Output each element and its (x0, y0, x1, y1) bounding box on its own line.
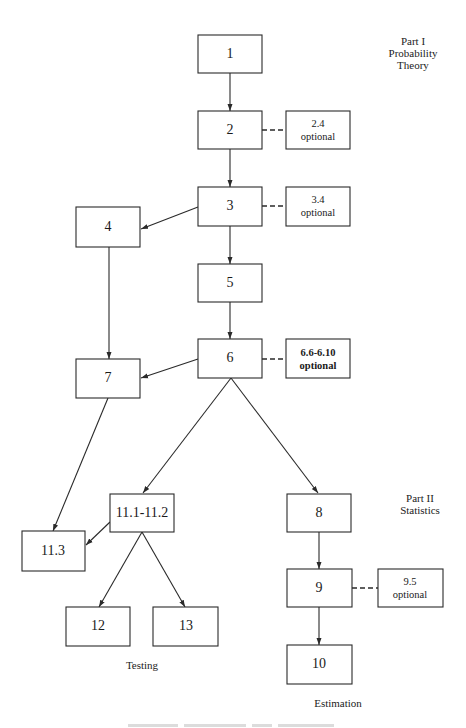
testing-label: Testing (126, 659, 159, 671)
node-2: 2 (198, 111, 262, 149)
estimation-label: Estimation (314, 697, 362, 709)
optional-section: 9.5 (403, 576, 416, 587)
part-1-label: Part I Probability Theory (389, 35, 438, 71)
node-label: 10 (312, 656, 326, 671)
node-1: 1 (198, 35, 262, 73)
edge-6-7 (141, 359, 198, 378)
cut-off-caption (128, 724, 334, 727)
optional-node-9-5: 9.5 optional (378, 569, 443, 607)
edge-11-1-13 (142, 532, 185, 607)
node-5: 5 (198, 264, 262, 302)
node-label: 13 (179, 618, 193, 633)
svg-text:Theory: Theory (397, 59, 429, 71)
node-label: 6 (227, 350, 234, 365)
optional-tag: optional (301, 131, 335, 142)
node-11-1-11-2: 11.1-11.2 (110, 494, 174, 532)
node-13: 13 (153, 607, 218, 646)
node-11-3: 11.3 (22, 531, 85, 571)
node-4: 4 (76, 207, 140, 247)
optional-tag: optional (300, 360, 337, 371)
edge-7-11-3 (53, 398, 108, 531)
part-2-label: Part II Statistics (400, 492, 440, 516)
node-label: 9 (316, 580, 323, 595)
node-7: 7 (76, 359, 140, 398)
node-label: 8 (316, 505, 323, 520)
node-6: 6 (198, 339, 262, 378)
svg-text:Statistics: Statistics (400, 504, 440, 516)
node-label: 4 (105, 219, 112, 234)
node-10: 10 (287, 645, 352, 684)
dependency-diagram: 1 2 3 4 5 6 7 8 9 10 11.1-11.2 11.3 (0, 0, 466, 728)
node-3: 3 (198, 187, 262, 226)
edge-11-1-11-3 (86, 522, 110, 545)
svg-text:Part II: Part II (406, 492, 434, 504)
optional-section: 2.4 (311, 118, 325, 129)
node-12: 12 (66, 607, 130, 646)
node-label: 2 (227, 122, 234, 137)
optional-node-3-4: 3.4 optional (286, 187, 350, 226)
node-label: 3 (227, 198, 234, 213)
edge-3-4 (141, 207, 198, 229)
optional-node-6-6: 6.6-6.10 optional (286, 339, 350, 378)
node-9: 9 (287, 569, 352, 607)
node-label: 1 (227, 46, 234, 61)
node-8: 8 (287, 494, 351, 532)
edge-11-1-12 (99, 532, 142, 607)
edge-6-8 (231, 378, 318, 493)
optional-tag: optional (301, 207, 335, 218)
optional-node-2-4: 2.4 optional (286, 111, 350, 149)
node-label: 11.1-11.2 (116, 505, 169, 520)
svg-text:Probability: Probability (389, 47, 438, 59)
optional-section: 6.6-6.10 (301, 347, 336, 358)
node-label: 5 (227, 275, 234, 290)
edge-6-11-1 (143, 378, 231, 493)
optional-section: 3.4 (311, 194, 325, 205)
node-label: 11.3 (41, 543, 65, 558)
optional-tag: optional (393, 589, 427, 600)
svg-text:Part I: Part I (401, 35, 425, 47)
node-label: 7 (105, 370, 112, 385)
node-label: 12 (91, 618, 105, 633)
